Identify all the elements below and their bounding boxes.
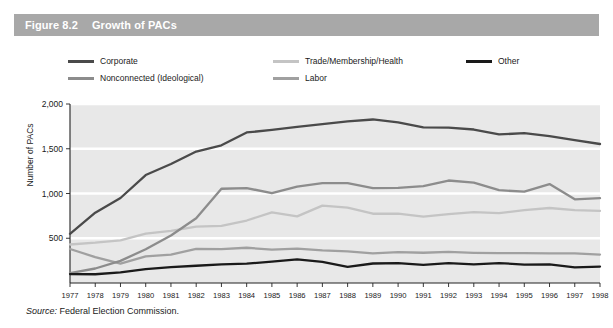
x-tick-label: 1995 — [516, 291, 533, 300]
x-tick-label: 1984 — [238, 291, 255, 300]
source-label: Source: — [26, 306, 57, 316]
x-tick-label: 1989 — [364, 291, 381, 300]
y-tick-label: 1,500 — [42, 144, 64, 154]
x-tick-label: 1979 — [112, 291, 129, 300]
x-tick-label: 1998 — [592, 291, 609, 300]
x-tick-label: 1987 — [314, 291, 331, 300]
x-tick-label: 1983 — [213, 291, 230, 300]
x-tick-label: 1986 — [289, 291, 306, 300]
x-tick-label: 1993 — [465, 291, 482, 300]
x-tick-label: 1985 — [263, 291, 280, 300]
x-tick-label: 1992 — [440, 291, 457, 300]
y-tick-label: 2,000 — [42, 99, 64, 109]
line-chart: 5001,0001,5002,0001977197819791980198119… — [0, 0, 613, 328]
figure-panel: Figure 8.2 Growth of PACs Corporate Nonc… — [0, 0, 613, 328]
source-note: Source: Federal Election Commission. — [26, 306, 179, 316]
source-text: Federal Election Commission. — [60, 306, 180, 316]
x-tick-label: 1981 — [162, 291, 179, 300]
x-tick-label: 1978 — [87, 291, 104, 300]
x-tick-label: 1980 — [137, 291, 154, 300]
y-tick-label: 500 — [49, 233, 63, 243]
x-tick-label: 1982 — [188, 291, 205, 300]
x-tick-label: 1996 — [541, 291, 558, 300]
x-tick-label: 1997 — [566, 291, 583, 300]
x-tick-label: 1988 — [339, 291, 356, 300]
x-tick-label: 1977 — [62, 291, 79, 300]
y-tick-label: 1,000 — [42, 189, 64, 199]
x-tick-label: 1994 — [491, 291, 508, 300]
x-tick-label: 1991 — [415, 291, 432, 300]
x-tick-label: 1990 — [390, 291, 407, 300]
chart-plot-area: Number of PACs 5001,0001,5002,0001977197… — [0, 0, 613, 328]
